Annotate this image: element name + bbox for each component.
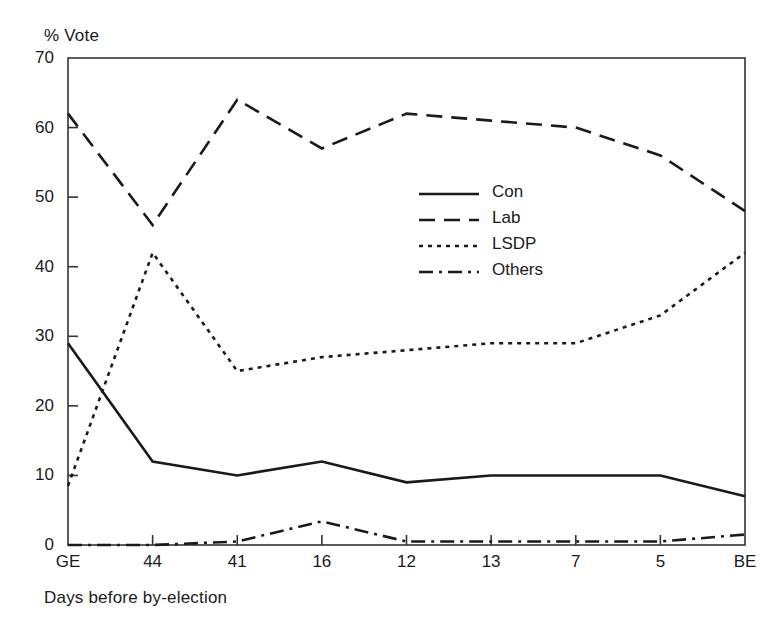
legend-label: Con: [492, 183, 523, 200]
legend-label: LSDP: [492, 235, 536, 252]
legend-label: Lab: [492, 209, 520, 226]
plot-area: [0, 0, 781, 621]
legend-item-lab: Lab: [418, 204, 543, 230]
series-line-lsdp: [68, 253, 745, 486]
legend-swatch-others-icon: [418, 263, 480, 275]
legend-swatch-lab-icon: [418, 211, 480, 223]
legend-swatch-con-icon: [418, 185, 480, 197]
legend: ConLabLSDPOthers: [418, 178, 543, 282]
chart-container: % Vote Days before by-election 706050403…: [0, 0, 781, 621]
legend-item-others: Others: [418, 256, 543, 282]
legend-item-con: Con: [418, 178, 543, 204]
legend-swatch-lsdp-icon: [418, 237, 480, 249]
series-line-con: [68, 343, 745, 496]
legend-item-lsdp: LSDP: [418, 230, 543, 256]
legend-label: Others: [492, 261, 543, 278]
plot-frame: [68, 58, 745, 545]
series-line-lab: [68, 100, 745, 225]
